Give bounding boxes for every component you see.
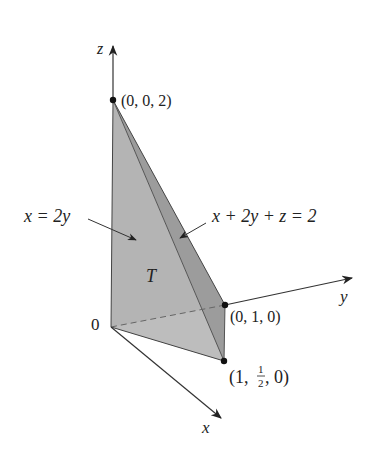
point-y bbox=[222, 302, 228, 308]
point-y-label: (0, 1, 0) bbox=[230, 308, 281, 326]
point-top bbox=[110, 97, 116, 103]
front-plane-label: x + 2y + z = 2 bbox=[211, 206, 316, 226]
point-xy-label: (1, 1 2 , 0) bbox=[229, 363, 289, 389]
y-axis-label: y bbox=[338, 287, 348, 306]
z-axis-label: z bbox=[96, 40, 104, 57]
origin-label: 0 bbox=[91, 315, 100, 334]
x-axis-label: x bbox=[201, 418, 210, 437]
y-axis bbox=[225, 278, 352, 305]
point-xy-frac-num: 1 bbox=[258, 363, 264, 375]
point-top-label: (0, 0, 2) bbox=[121, 92, 172, 110]
left-plane-label: x = 2y bbox=[23, 206, 70, 226]
point-xy-prefix: (1, bbox=[229, 367, 249, 388]
point-xy-frac-den: 2 bbox=[258, 377, 264, 389]
point-xy bbox=[221, 358, 227, 364]
point-xy-suffix: , 0) bbox=[265, 367, 289, 388]
tetrahedron-diagram: z y x 0 (0, 0, 2) (0, 1, 0) (1, 1 2 , 0)… bbox=[0, 0, 376, 454]
